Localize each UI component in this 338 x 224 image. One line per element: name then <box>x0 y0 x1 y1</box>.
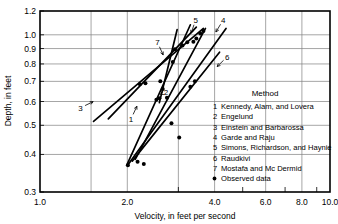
curve-label-5: 5 <box>193 16 198 25</box>
y-tick-label-0.6: 0.6 <box>24 97 36 107</box>
curve-label-4: 4 <box>221 16 226 25</box>
observed-point <box>169 121 173 125</box>
chart-background <box>0 0 338 224</box>
legend-key-7: 7 <box>213 164 217 173</box>
legend-label-6: Raudkivi <box>221 154 250 163</box>
observed-point <box>194 37 198 41</box>
observed-point <box>185 40 189 44</box>
curve-label-1: 1 <box>129 115 134 124</box>
curve-label-7: 7 <box>155 38 160 47</box>
legend-marker-observed-data <box>213 177 217 181</box>
y-tick-label-1.2: 1.2 <box>24 6 36 16</box>
observed-point <box>173 47 177 51</box>
observed-point <box>138 82 142 86</box>
x-tick-label-6.0: 6.0 <box>260 197 272 207</box>
y-tick-label-0.4: 0.4 <box>24 149 36 159</box>
legend-label-3: Einstein and Barbarossa <box>221 123 305 132</box>
legend-key-2: 2 <box>213 112 217 121</box>
y-tick-label-0.5: 0.5 <box>24 120 36 130</box>
observed-point <box>142 162 146 166</box>
observed-point <box>126 163 130 167</box>
observed-point <box>191 40 195 44</box>
y-tick-label-0.9: 0.9 <box>24 44 36 54</box>
y-tick-label-1.0: 1.0 <box>24 30 36 40</box>
x-tick-label-8.0: 8.0 <box>296 197 308 207</box>
observed-point <box>177 136 181 140</box>
y-tick-label-0.8: 0.8 <box>24 59 36 69</box>
velocity-depth-log-log-chart: 0.30.40.50.60.70.80.91.01.2 1.02.04.06.0… <box>0 0 338 224</box>
legend-key-4: 4 <box>213 133 217 142</box>
observed-point <box>198 32 202 36</box>
legend-key-5: 5 <box>213 143 217 152</box>
y-tick-label-0.7: 0.7 <box>24 76 36 86</box>
legend-label-1: Kennedy, Alam, and Lovera <box>221 102 315 111</box>
observed-point <box>154 98 158 102</box>
observed-point <box>193 79 197 83</box>
observed-point <box>165 96 169 100</box>
chart-figure: 0.30.40.50.60.70.80.91.01.2 1.02.04.06.0… <box>0 0 338 224</box>
observed-point <box>136 160 140 164</box>
legend-label-5: Simons, Richardson, and Haynie <box>221 143 332 152</box>
observed-point <box>171 60 175 64</box>
y-tick-label-0.3: 0.3 <box>24 187 36 197</box>
legend-label-4: Garde and Raju <box>221 133 275 142</box>
legend-key-1: 1 <box>213 102 217 111</box>
legend-label-2: Engelund <box>221 112 253 121</box>
curve-label-6: 6 <box>225 53 230 62</box>
x-tick-label-4.0: 4.0 <box>209 197 221 207</box>
legend-key-6: 6 <box>213 154 217 163</box>
observed-point <box>201 29 205 33</box>
legend-key-3: 3 <box>213 123 217 132</box>
curve-label-3: 3 <box>78 104 83 113</box>
x-tick-label-1.0: 1.0 <box>34 197 46 207</box>
observed-point <box>158 79 162 83</box>
y-axis-title: Depth, in feet <box>3 75 13 126</box>
legend-title: Method <box>252 89 279 98</box>
observed-point <box>161 87 165 91</box>
legend-label-dot: Observed data <box>221 174 272 183</box>
observed-point <box>180 43 184 47</box>
observed-point <box>143 81 147 85</box>
x-tick-label-2.0: 2.0 <box>121 197 133 207</box>
legend-label-7: Mostafa and Mc Dermid <box>221 164 302 173</box>
x-tick-label-10.0: 10.0 <box>322 197 338 207</box>
x-axis-title: Velocity, in feet per second <box>135 211 236 221</box>
observed-point <box>188 85 192 89</box>
